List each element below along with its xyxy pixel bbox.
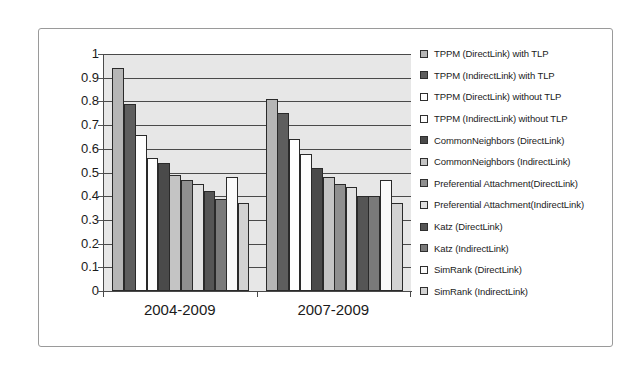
legend-swatch-icon xyxy=(420,201,428,209)
legend-swatch-icon xyxy=(420,244,428,252)
chart-frame: 10.90.80.70.60.50.40.30.20.10 2004-20092… xyxy=(38,28,613,347)
bar xyxy=(380,180,392,291)
x-axis-category-label: 2004-2009 xyxy=(103,301,257,318)
bar xyxy=(135,135,147,291)
legend-item[interactable]: Katz (DirectLink) xyxy=(420,216,610,238)
y-axis-tick-label: 0.5 xyxy=(81,168,99,178)
legend-label: TPPM (DirectLink) without TLP xyxy=(434,91,561,102)
bar xyxy=(346,187,358,291)
bar xyxy=(158,163,170,291)
bar xyxy=(391,203,403,291)
legend-label: CommonNeighbors (DirectLink) xyxy=(434,135,564,146)
bar xyxy=(112,68,124,291)
legend-item[interactable]: CommonNeighbors (IndirectLink) xyxy=(420,151,610,173)
legend-swatch-icon xyxy=(420,71,428,79)
legend-label: SimRank (DirectLink) xyxy=(434,264,522,275)
legend-label: SimRank (IndirectLink) xyxy=(434,286,528,297)
bar xyxy=(226,177,238,291)
legend-item[interactable]: TPPM (DirectLink) with TLP xyxy=(420,43,610,65)
bar xyxy=(169,175,181,291)
legend-swatch-icon xyxy=(420,287,428,295)
plot-area xyxy=(103,54,411,291)
legend-item[interactable]: CommonNeighbors (DirectLink) xyxy=(420,129,610,151)
x-axis-category-label: 2007-2009 xyxy=(257,301,411,318)
x-axis-line xyxy=(103,291,412,292)
legend-label: Katz (IndirectLink) xyxy=(434,243,509,254)
legend-item[interactable]: SimRank (DirectLink) xyxy=(420,259,610,281)
y-axis-tick-label: 0.4 xyxy=(81,191,99,201)
legend-swatch-icon xyxy=(420,266,428,274)
y-axis-tick-label: 0.7 xyxy=(81,120,99,130)
legend-swatch-icon xyxy=(420,136,428,144)
y-axis-tick-label: 0.8 xyxy=(81,96,99,106)
bar xyxy=(289,139,301,291)
legend-label: Preferential Attachment(IndirectLink) xyxy=(434,199,584,210)
bar xyxy=(238,203,250,291)
bar xyxy=(181,180,193,291)
x-axis-tick-mark xyxy=(410,291,411,297)
y-axis-tick-label: 0.2 xyxy=(81,239,99,249)
x-axis-labels: 2004-20092007-2009 xyxy=(103,301,410,327)
bar xyxy=(323,177,335,291)
bar xyxy=(266,99,278,291)
bar xyxy=(124,104,136,291)
legend-item[interactable]: TPPM (IndirectLink) without TLP xyxy=(420,108,610,130)
bar xyxy=(215,199,227,291)
legend-swatch-icon xyxy=(420,115,428,123)
y-axis: 10.90.80.70.60.50.40.30.20.10 xyxy=(57,29,103,348)
bar xyxy=(311,168,323,291)
legend-label: Preferential Attachment(DirectLink) xyxy=(434,178,578,189)
legend-label: TPPM (DirectLink) with TLP xyxy=(434,48,548,59)
bar xyxy=(357,196,369,291)
y-axis-tick-label: 0.9 xyxy=(81,73,99,83)
x-axis-tick-mark xyxy=(103,291,104,297)
chart-legend: TPPM (DirectLink) with TLPTPPM (Indirect… xyxy=(420,43,610,302)
legend-label: Katz (DirectLink) xyxy=(434,221,503,232)
legend-item[interactable]: Preferential Attachment(IndirectLink) xyxy=(420,194,610,216)
y-axis-tick-label: 0.6 xyxy=(81,144,99,154)
bar-series-container xyxy=(104,54,411,291)
bar xyxy=(192,184,204,291)
bar xyxy=(277,113,289,291)
legend-label: TPPM (IndirectLink) with TLP xyxy=(434,70,555,81)
y-axis-tick-label: 0.1 xyxy=(81,262,99,272)
legend-swatch-icon xyxy=(420,223,428,231)
legend-item[interactable]: Preferential Attachment(DirectLink) xyxy=(420,173,610,195)
legend-swatch-icon xyxy=(420,50,428,58)
legend-item[interactable]: Katz (IndirectLink) xyxy=(420,237,610,259)
legend-item[interactable]: TPPM (IndirectLink) with TLP xyxy=(420,65,610,87)
legend-swatch-icon xyxy=(420,179,428,187)
legend-label: CommonNeighbors (IndirectLink) xyxy=(434,156,570,167)
legend-label: TPPM (IndirectLink) without TLP xyxy=(434,113,567,124)
bar xyxy=(204,191,216,291)
legend-swatch-icon xyxy=(420,158,428,166)
bar-chart: 10.90.80.70.60.50.40.30.20.10 2004-20092… xyxy=(39,29,614,348)
y-axis-tick-label: 0.3 xyxy=(81,215,99,225)
legend-swatch-icon xyxy=(420,93,428,101)
x-axis-tick-mark xyxy=(257,291,258,297)
bar xyxy=(368,196,380,291)
bar xyxy=(300,154,312,291)
bar xyxy=(334,184,346,291)
legend-item[interactable]: TPPM (DirectLink) without TLP xyxy=(420,86,610,108)
bar xyxy=(147,158,159,291)
legend-item[interactable]: SimRank (IndirectLink) xyxy=(420,281,610,303)
